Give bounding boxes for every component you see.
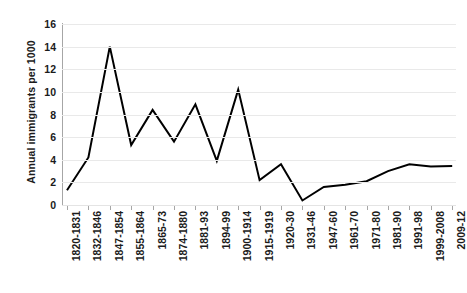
gridline-14 xyxy=(62,47,456,48)
x-tick-mark-2 xyxy=(110,206,111,210)
y-tick-label-6: 6 xyxy=(26,132,56,142)
x-tick-mark-8 xyxy=(238,206,239,210)
x-tick-label-7: 1894-99 xyxy=(221,211,232,250)
y-tick-label-2: 2 xyxy=(26,177,56,187)
x-tick-label-17: 1999-2008 xyxy=(435,211,446,261)
x-tick-mark-10 xyxy=(281,206,282,210)
y-tick-label-12: 12 xyxy=(26,64,56,74)
x-tick-mark-4 xyxy=(153,206,154,210)
x-tick-mark-1 xyxy=(88,206,89,210)
y-tick-label-16: 16 xyxy=(26,19,56,29)
x-tick-label-13: 1961-70 xyxy=(349,211,360,250)
gridline-10 xyxy=(62,92,456,93)
x-tick-mark-3 xyxy=(131,206,132,210)
x-tick-label-12: 1947-60 xyxy=(328,211,339,250)
x-tick-label-5: 1874-1880 xyxy=(178,211,189,261)
x-tick-mark-7 xyxy=(217,206,218,210)
x-tick-label-0: 1820-1831 xyxy=(71,211,82,261)
x-tick-mark-18 xyxy=(452,206,453,210)
x-tick-mark-12 xyxy=(324,206,325,210)
gridline-16 xyxy=(62,24,456,25)
x-tick-label-15: 1981-90 xyxy=(392,211,403,250)
x-tick-label-16: 1991-98 xyxy=(413,211,424,250)
x-tick-mark-17 xyxy=(431,206,432,210)
x-tick-label-3: 1855-1864 xyxy=(135,211,146,261)
x-tick-label-10: 1920-30 xyxy=(285,211,296,250)
gridline-2 xyxy=(62,182,456,183)
y-tick-label-10: 10 xyxy=(26,87,56,97)
x-tick-mark-15 xyxy=(388,206,389,210)
x-tick-mark-16 xyxy=(409,206,410,210)
gridline-4 xyxy=(62,160,456,161)
x-tick-label-11: 1931-46 xyxy=(306,211,317,250)
x-tick-mark-14 xyxy=(367,206,368,210)
x-tick-label-6: 1881-93 xyxy=(199,211,210,250)
gridline-12 xyxy=(62,69,456,70)
x-tick-mark-11 xyxy=(302,206,303,210)
x-tick-label-14: 1971-80 xyxy=(371,211,382,250)
x-tick-label-9: 1915-1919 xyxy=(264,211,275,261)
y-axis-tick-labels: 0246810121416 xyxy=(26,24,56,205)
y-tick-label-4: 4 xyxy=(26,155,56,165)
x-tick-label-1: 1832-1846 xyxy=(92,211,103,261)
gridline-6 xyxy=(62,137,456,138)
x-tick-label-18: 2009-12 xyxy=(456,211,467,250)
x-axis-tick-labels: 1820-18311832-18461847-18541855-18641865… xyxy=(0,211,467,293)
x-tick-mark-9 xyxy=(260,206,261,210)
x-tick-mark-0 xyxy=(67,206,68,210)
plot-area xyxy=(62,24,456,205)
x-tick-mark-5 xyxy=(174,206,175,210)
y-tick-label-8: 8 xyxy=(26,110,56,120)
x-tick-mark-6 xyxy=(195,206,196,210)
y-tick-label-14: 14 xyxy=(26,42,56,52)
x-tick-mark-13 xyxy=(345,206,346,210)
x-tick-label-2: 1847-1854 xyxy=(114,211,125,261)
immigration-rate-line-chart: Annual immigrants per 1000 0246810121416… xyxy=(0,0,467,293)
x-tick-label-4: 1865-73 xyxy=(157,211,168,250)
x-tick-label-8: 1900-1914 xyxy=(242,211,253,261)
gridline-8 xyxy=(62,115,456,116)
